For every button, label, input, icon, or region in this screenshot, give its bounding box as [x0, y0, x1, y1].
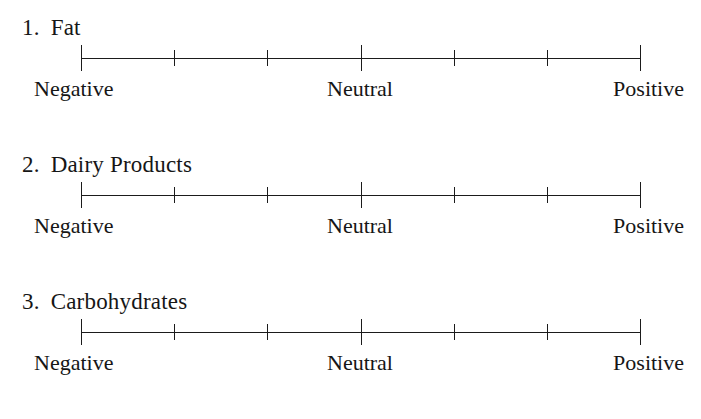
tick-1-0[interactable] [81, 45, 82, 71]
tick-3-1[interactable] [174, 324, 175, 340]
tick-2-1[interactable] [174, 187, 175, 203]
tick-2-0[interactable] [81, 182, 82, 208]
item-number-3: 3. [22, 288, 40, 316]
tick-1-2[interactable] [267, 50, 268, 66]
anchor-labels-1: Negative Neutral Positive [0, 76, 701, 104]
rating-scale-track-3[interactable] [81, 332, 640, 333]
anchor-negative-3: Negative [34, 350, 113, 376]
tick-2-2[interactable] [267, 187, 268, 203]
anchor-neutral-1: Neutral [327, 76, 393, 102]
item-label-2: Dairy Products [51, 151, 192, 179]
tick-1-1[interactable] [174, 50, 175, 66]
tick-1-6[interactable] [640, 45, 641, 71]
anchor-labels-2: Negative Neutral Positive [0, 213, 701, 241]
tick-3-4[interactable] [454, 324, 455, 340]
item-title-2: 2.Dairy Products [22, 151, 192, 179]
anchor-positive-2: Positive [613, 213, 684, 239]
questionnaire-page: 1.Fat Negative Neutral Positive 2.Dairy … [0, 0, 701, 419]
tick-3-2[interactable] [267, 324, 268, 340]
rating-scale-track-1[interactable] [81, 58, 640, 59]
item-title-1: 1.Fat [22, 14, 81, 42]
tick-1-4[interactable] [454, 50, 455, 66]
tick-1-5[interactable] [547, 50, 548, 66]
rating-scale-track-2[interactable] [81, 195, 640, 196]
anchor-positive-1: Positive [613, 76, 684, 102]
tick-3-5[interactable] [547, 324, 548, 340]
anchor-labels-3: Negative Neutral Positive [0, 350, 701, 378]
tick-2-6[interactable] [640, 182, 641, 208]
tick-3-0[interactable] [81, 319, 82, 345]
tick-3-3[interactable] [361, 319, 362, 345]
anchor-negative-1: Negative [34, 76, 113, 102]
tick-2-3[interactable] [361, 182, 362, 208]
tick-2-5[interactable] [547, 187, 548, 203]
tick-3-6[interactable] [640, 319, 641, 345]
anchor-negative-2: Negative [34, 213, 113, 239]
anchor-neutral-2: Neutral [327, 213, 393, 239]
anchor-neutral-3: Neutral [327, 350, 393, 376]
item-label-1: Fat [51, 14, 81, 42]
anchor-positive-3: Positive [613, 350, 684, 376]
item-label-3: Carbohydrates [51, 288, 188, 316]
item-number-2: 2. [22, 151, 40, 179]
item-title-3: 3.Carbohydrates [22, 288, 187, 316]
item-number-1: 1. [22, 14, 40, 42]
tick-1-3[interactable] [361, 45, 362, 71]
tick-2-4[interactable] [454, 187, 455, 203]
